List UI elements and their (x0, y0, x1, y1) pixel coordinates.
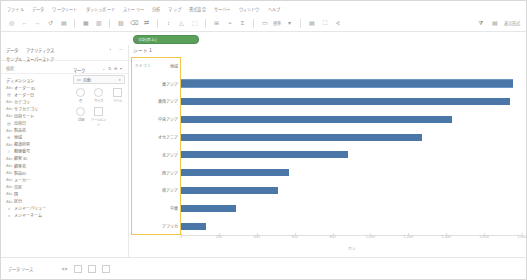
marks-detail-button[interactable]: 詳細 (73, 107, 88, 127)
field-row[interactable]: Abc顧客 ID (6, 155, 123, 162)
new-story-icon[interactable] (102, 265, 110, 273)
field-row[interactable]: Abc国 (6, 190, 123, 197)
marks-size-button[interactable]: サイズ (91, 88, 106, 103)
tab-analytics[interactable]: アナリティクス (26, 47, 54, 53)
field-label: メジャーネーム (14, 212, 42, 218)
axis-tick-label: 1,200 (404, 235, 414, 239)
menu-item-map[interactable]: マップ (168, 6, 181, 12)
group-icon[interactable]: ⊞ (212, 19, 221, 28)
field-row[interactable]: Abc区分 (6, 198, 123, 205)
show-me-label[interactable]: 表示形式 (504, 20, 520, 26)
fix-axes-icon[interactable]: ▤ (307, 19, 316, 28)
marks-tooltip-button[interactable]: ツールヒント (91, 107, 106, 127)
tab-data[interactable]: データ (6, 47, 18, 53)
bar-row (181, 75, 522, 93)
chevron-icon[interactable]: › (110, 47, 111, 53)
marks-buttons-row-1: 色 サイズ ラベル (73, 88, 125, 103)
save-icon[interactable]: ▤ (59, 19, 68, 28)
clear-sheet-icon[interactable]: ⌫ (129, 19, 138, 28)
totals-icon[interactable]: Σ (238, 19, 247, 28)
bar-mark[interactable] (181, 205, 236, 212)
field-row[interactable]: Abc製品ID (6, 169, 123, 176)
search-input[interactable]: 検索 (6, 65, 14, 71)
field-row[interactable]: Abcメーカー (6, 176, 123, 183)
menu-item-help[interactable]: ヘルプ (268, 6, 281, 12)
field-row[interactable]: #郵便番号 (6, 148, 123, 155)
field-row[interactable]: Abc市区 (6, 183, 123, 190)
menu-item-file[interactable]: ファイル (7, 6, 24, 12)
bar-row (181, 199, 522, 217)
menu-bar[interactable]: ファイル データ ワークシート ダッシュボード ストーリー 分析 マップ 書式設… (1, 1, 526, 15)
duplicate-icon[interactable]: ▧ (116, 19, 125, 28)
marks-color-label: 色 (73, 98, 88, 103)
new-dashboard-icon[interactable] (88, 265, 96, 273)
field-row[interactable]: Abc顧客名 (6, 162, 123, 169)
menu-item-dashboard[interactable]: ダッシュボード (86, 6, 115, 12)
forward-icon[interactable]: → (33, 19, 42, 28)
field-label: メーカー (14, 177, 30, 183)
tableau-window: ファイル データ ワークシート ダッシュボード ストーリー 分析 マップ 書式設… (0, 0, 527, 280)
columns-shelf[interactable]: 列 合計(売上) (1, 34, 526, 45)
highlight-icon[interactable]: ⬚ (190, 19, 199, 28)
undo-icon[interactable]: ↺ (46, 19, 55, 28)
sort-ascending-icon[interactable]: ↕ (164, 19, 173, 28)
back-icon[interactable]: ← (20, 19, 29, 28)
data-pane-more[interactable]: ⋯ (119, 47, 123, 53)
bar-mark[interactable] (181, 151, 348, 158)
calendar-icon: ▤ (6, 121, 11, 126)
bar-mark[interactable] (181, 79, 513, 88)
bar-mark[interactable] (181, 187, 278, 194)
marks-label-button[interactable]: ラベル (110, 88, 125, 103)
swap-axes-icon[interactable]: ⇄ (142, 19, 151, 28)
data-source-tab[interactable]: データ ソース (8, 266, 33, 272)
labels-icon[interactable]: ⌁ (225, 19, 234, 28)
bar-row (181, 182, 522, 200)
status-bar: データ ソース ◀ ▶ (1, 257, 526, 279)
bar-row (181, 128, 522, 146)
axis-tick-label: 1,800 (517, 235, 527, 239)
field-label: メジャーバリュー (14, 205, 46, 211)
marks-color-button[interactable]: 色 (73, 88, 88, 103)
pill-columns-sum-sales[interactable]: 合計(売上) (133, 35, 199, 44)
viz-body: カテゴリ地域東アジア東南アジア中央アジアオセアニア北アジア西アジア南アジア中東ア… (129, 55, 522, 257)
field-row[interactable]: ⌗メジャーネーム (6, 212, 123, 219)
fit-label[interactable]: 標準 (273, 20, 281, 26)
share-icon[interactable]: ⊰ (333, 19, 342, 28)
new-worksheet-icon[interactable] (74, 265, 82, 273)
mark-type-dropdown[interactable]: ▭ 自動 ▾ (73, 75, 125, 84)
menu-item-analysis[interactable]: 分析 (152, 6, 160, 12)
menu-item-format[interactable]: 書式設定 (189, 6, 206, 12)
menu-item-server[interactable]: サーバー (214, 6, 231, 12)
filter-icon[interactable]: ⧩ (476, 18, 485, 27)
field-row[interactable]: Abc製品名 (6, 127, 123, 134)
field-row[interactable]: ⊕地域 (6, 134, 123, 141)
bar-mark[interactable] (181, 98, 510, 105)
new-worksheet-icon[interactable]: ▥ (94, 19, 103, 28)
show-me-icon[interactable]: ▤ (490, 18, 499, 27)
bar-mark[interactable] (181, 223, 206, 230)
menu-item-worksheet[interactable]: ワークシート (52, 6, 77, 12)
axis-tick-label: 1,600 (479, 235, 489, 239)
sort-descending-icon[interactable]: △ (177, 19, 186, 28)
bar-mark[interactable] (181, 169, 289, 176)
chevron-down-icon[interactable]: ▾ (285, 19, 294, 28)
axis-tick-label: 1,000 (366, 235, 376, 239)
data-source-name[interactable]: サンプル - スーパーストア (1, 53, 128, 63)
bar-mark[interactable] (181, 134, 422, 141)
chevron-down-icon[interactable]: ▾ (119, 78, 121, 82)
tableau-logo-icon[interactable]: ◎ (7, 19, 16, 28)
field-label: カテゴリ (14, 99, 30, 105)
abc-icon: Abc (6, 113, 11, 118)
sheet-nav-arrows[interactable]: ◀ ▶ (61, 266, 68, 271)
menu-item-story[interactable]: ストーリー (123, 6, 144, 12)
field-label: 地域 (14, 134, 22, 140)
fit-dropdown[interactable]: ▭ (260, 19, 269, 28)
bar-mark[interactable] (181, 116, 452, 123)
field-label: オーダー日 (14, 92, 34, 98)
presentation-icon[interactable]: ⛶ (320, 19, 329, 28)
new-data-source-icon[interactable]: ▦ (81, 19, 90, 28)
menu-item-data[interactable]: データ (32, 6, 45, 12)
field-row[interactable]: ⌗メジャーバリュー (6, 205, 123, 212)
menu-item-window[interactable]: ウィンドウ (239, 6, 260, 12)
field-row[interactable]: Abc都道府県 (6, 141, 123, 148)
